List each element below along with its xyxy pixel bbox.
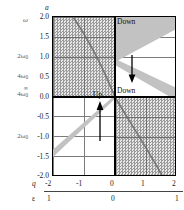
y-tick-0.5: 0.5 — [28, 73, 49, 81]
y-tick--1.5: -1.5 — [26, 153, 49, 161]
up-arrow-icon — [97, 101, 104, 141]
y-tick-2.0: 2.0 — [28, 13, 49, 21]
plot-area: Down Down Up — [52, 16, 176, 176]
omega-tick-4w0-upper: 4ω0 — [0, 73, 28, 81]
down-arrow-icon — [129, 55, 136, 83]
omega-tick-2w0-upper: 2ω0 — [0, 53, 28, 61]
omega-tick-2w0-lower: 2ω0 — [0, 133, 28, 141]
omega-axis-symbol: ω — [2, 17, 28, 24]
omega-tick-4w0-lower: 4ω0 — [0, 91, 28, 99]
y-tick--1.0: -1.0 — [26, 133, 49, 141]
x-tick--2: -2 — [45, 180, 51, 188]
x-axis-symbol-q: q — [32, 180, 36, 188]
eps-tick-right: 1 — [175, 195, 179, 203]
x-tick-1: 1 — [141, 180, 145, 188]
y-tick-1.5: 1.5 — [28, 33, 49, 41]
x-tick--1: -1 — [76, 180, 82, 188]
x-tick-0: 0 — [110, 180, 114, 188]
eps-tick-left: 1 — [47, 195, 51, 203]
y-tick-0.0: 0.0 — [28, 93, 49, 101]
stability-diagram-figure: ω 2ω0 4ω0 ∞ 4ω0 2ω0 a 2.0 1.5 1.0 0.5 0.… — [0, 0, 184, 210]
x-axis-separator-rule — [44, 191, 183, 192]
x-axis-symbol-epsilon: ε — [32, 195, 35, 203]
eps-tick-center: 0 — [111, 195, 115, 203]
y-axis-symbol: a — [45, 4, 49, 12]
x-tick-2: 2 — [172, 180, 176, 188]
annotation-arrows — [53, 17, 176, 176]
y-tick--0.5: -0.5 — [26, 113, 49, 121]
y-tick-1.0: 1.0 — [28, 53, 49, 61]
